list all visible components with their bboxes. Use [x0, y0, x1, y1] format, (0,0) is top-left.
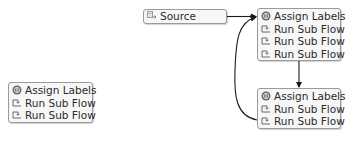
node-label: Assign Labels — [274, 10, 346, 22]
run-sub-flow-icon — [261, 36, 271, 46]
source-node[interactable]: Source — [143, 9, 227, 24]
node-label: Run Sub Flow — [274, 48, 345, 60]
node-label: Source — [160, 10, 196, 22]
node-group-bottom[interactable]: Assign Labels Run Sub Flow Run Sub Flow — [257, 88, 341, 129]
flow-canvas[interactable]: Source Assign Labels Run Sub Flow Run — [0, 0, 346, 142]
node-row[interactable]: Run Sub Flow — [12, 97, 89, 110]
node-row[interactable]: Assign Labels — [261, 90, 337, 103]
node-label: Run Sub Flow — [274, 35, 345, 47]
node-label: Run Sub Flow — [274, 115, 345, 127]
node-row[interactable]: Assign Labels — [12, 84, 89, 97]
node-row[interactable]: Run Sub Flow — [261, 48, 337, 61]
run-sub-flow-icon — [261, 49, 271, 59]
node-label: Assign Labels — [274, 90, 346, 102]
node-row: Source — [147, 10, 223, 22]
run-sub-flow-icon — [12, 110, 22, 120]
node-label: Run Sub Flow — [25, 97, 96, 109]
node-label: Run Sub Flow — [274, 103, 345, 115]
node-row[interactable]: Run Sub Flow — [261, 35, 337, 48]
node-row[interactable]: Run Sub Flow — [12, 109, 89, 122]
run-sub-flow-icon — [261, 104, 271, 114]
node-row[interactable]: Run Sub Flow — [261, 115, 337, 128]
run-sub-flow-icon — [261, 116, 271, 126]
node-group-top[interactable]: Assign Labels Run Sub Flow Run Sub Flow … — [257, 8, 341, 61]
source-icon — [147, 11, 157, 21]
node-label: Run Sub Flow — [25, 109, 96, 121]
node-row[interactable]: Assign Labels — [261, 10, 337, 23]
run-sub-flow-icon — [12, 98, 22, 108]
assign-labels-icon — [261, 11, 271, 21]
edge-bottom-loop-to-top — [235, 17, 257, 120]
node-group-left[interactable]: Assign Labels Run Sub Flow Run Sub Flow — [8, 82, 93, 123]
node-label: Run Sub Flow — [274, 23, 345, 35]
node-row[interactable]: Run Sub Flow — [261, 103, 337, 116]
run-sub-flow-icon — [261, 24, 271, 34]
node-label: Assign Labels — [25, 84, 97, 96]
assign-labels-icon — [261, 91, 271, 101]
node-row[interactable]: Run Sub Flow — [261, 23, 337, 36]
assign-labels-icon — [12, 85, 22, 95]
